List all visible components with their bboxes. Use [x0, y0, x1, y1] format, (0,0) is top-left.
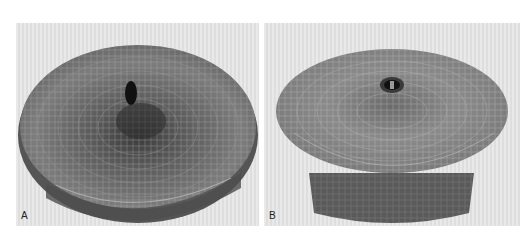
- photo-panel-b: B: [264, 23, 520, 226]
- panel-label-b: B: [269, 211, 276, 221]
- photo-panel-a: A: [16, 23, 259, 226]
- mesh-basket-illustration-a: [16, 23, 259, 226]
- mesh-dome-illustration-b: [264, 23, 520, 226]
- panel-label-a: A: [21, 211, 28, 221]
